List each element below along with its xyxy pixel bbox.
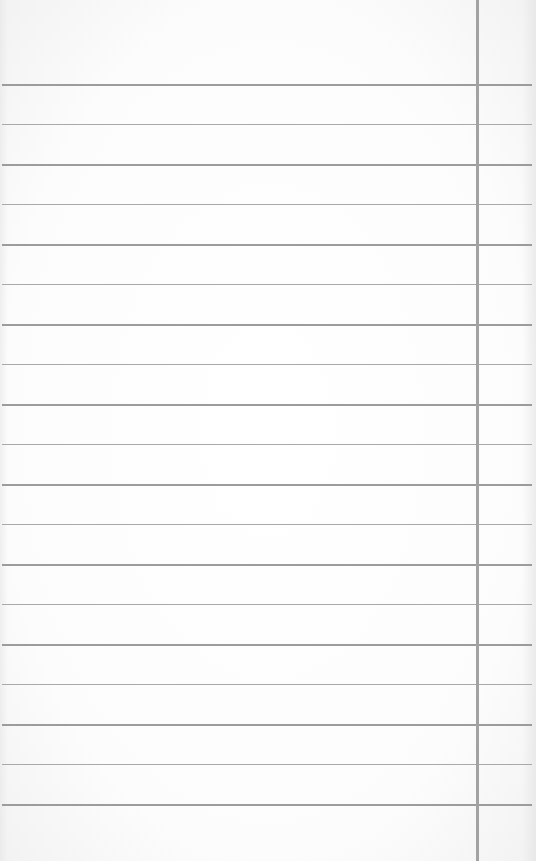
ruled-line: [2, 324, 532, 326]
margin-line: [476, 0, 479, 861]
ruled-line: [2, 484, 532, 486]
ruled-line: [2, 644, 532, 646]
ruled-line: [2, 204, 532, 205]
ruled-line: [2, 124, 532, 125]
ruled-line: [2, 764, 532, 765]
ruled-line: [2, 164, 532, 166]
ruled-line: [2, 284, 532, 285]
ruled-line: [2, 604, 532, 605]
ruled-line: [2, 444, 532, 445]
ruled-line: [2, 564, 532, 566]
ruled-line: [2, 804, 532, 806]
paper-right-shadow: [522, 0, 536, 861]
ruled-line: [2, 684, 532, 685]
ruled-line: [2, 84, 532, 86]
ruled-line: [2, 404, 532, 406]
ruled-line: [2, 364, 532, 365]
paper-left-shadow: [0, 0, 8, 861]
ruled-line: [2, 524, 532, 525]
lined-paper: [0, 0, 536, 861]
ruled-line: [2, 724, 532, 726]
ruled-line: [2, 244, 532, 246]
